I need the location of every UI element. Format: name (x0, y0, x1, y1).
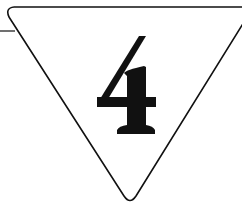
sign-figure: 4 (0, 0, 242, 215)
inverted-triangle-icon (0, 0, 242, 215)
